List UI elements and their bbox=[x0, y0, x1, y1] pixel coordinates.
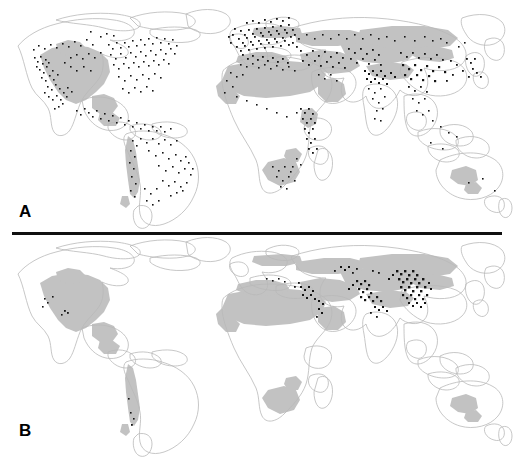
panel-label-b: B bbox=[19, 422, 31, 439]
panel-label-a: A bbox=[19, 203, 31, 220]
figure-root: AB bbox=[0, 0, 514, 460]
panel-a-map bbox=[0, 0, 514, 231]
panel-divider-line bbox=[12, 232, 502, 235]
world-map-panel-b bbox=[0, 236, 514, 460]
panel-b-map bbox=[0, 236, 514, 460]
range-fill-layer-b bbox=[40, 254, 482, 436]
range-fill-layer-a bbox=[40, 26, 482, 208]
world-map-panel-a bbox=[0, 0, 514, 231]
